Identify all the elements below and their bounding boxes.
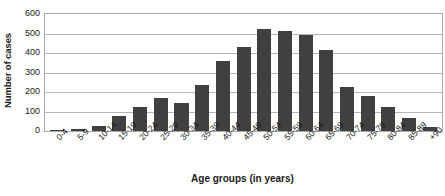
bar-slot — [357, 14, 378, 131]
y-tick-label: 200 — [25, 86, 40, 96]
bar-slot — [192, 14, 213, 131]
bar-slot — [47, 14, 68, 131]
bar — [216, 61, 230, 131]
x-slot: 10-14 — [87, 132, 108, 168]
bar — [237, 47, 251, 131]
y-tick-label: 500 — [25, 28, 40, 38]
bar-slot — [109, 14, 130, 131]
x-slot: 90+ — [418, 132, 439, 168]
x-slot: 15-19 — [108, 132, 129, 168]
bar-slot — [233, 14, 254, 131]
x-slot: 55-59 — [274, 132, 295, 168]
bar-slot — [399, 14, 420, 131]
x-slot: 5-9 — [67, 132, 88, 168]
bar-slot — [378, 14, 399, 131]
y-axis-tick-labels: 0100200300400500600 — [16, 7, 42, 133]
bar — [299, 35, 313, 131]
bars-layer — [45, 14, 442, 131]
bar-slot — [68, 14, 89, 131]
x-slot: 40-44 — [212, 132, 233, 168]
x-slot: 70-74 — [336, 132, 357, 168]
bar-slot — [171, 14, 192, 131]
x-axis-tick-labels: 0-45-910-1415-1920-2425-2930-3435-3940-4… — [44, 132, 441, 168]
x-slot: 50-54 — [253, 132, 274, 168]
bar — [319, 50, 333, 131]
bar-slot — [419, 14, 440, 131]
x-slot: 25-29 — [149, 132, 170, 168]
y-tick-label: 400 — [25, 47, 40, 57]
x-slot: 35-39 — [191, 132, 212, 168]
y-tick-label: 300 — [25, 67, 40, 77]
x-slot: 80-84 — [377, 132, 398, 168]
x-slot: 0-4 — [46, 132, 67, 168]
bar — [278, 31, 292, 131]
bar-slot — [130, 14, 151, 131]
y-axis-title: Number of cases — [0, 0, 16, 140]
bar-slot — [213, 14, 234, 131]
bar-slot — [316, 14, 337, 131]
bar-slot — [254, 14, 275, 131]
x-axis-title: Age groups (in years) — [44, 173, 441, 184]
bar-slot — [275, 14, 296, 131]
y-tick-label: 600 — [25, 8, 40, 18]
x-slot: 75-79 — [356, 132, 377, 168]
x-slot: 60-64 — [294, 132, 315, 168]
x-slot: 85-89 — [398, 132, 419, 168]
y-tick-label: 100 — [25, 106, 40, 116]
x-slot: 20-24 — [129, 132, 150, 168]
bar — [257, 29, 271, 131]
x-slot: 45-49 — [232, 132, 253, 168]
bar-chart-figure: Number of cases 0100200300400500600 0-45… — [0, 0, 445, 196]
y-tick-label: 0 — [35, 125, 40, 135]
bar-slot — [88, 14, 109, 131]
y-axis-title-text: Number of cases — [3, 32, 14, 107]
x-slot: 65-69 — [315, 132, 336, 168]
bar-slot — [150, 14, 171, 131]
plot-area — [44, 13, 443, 132]
x-slot: 30-34 — [170, 132, 191, 168]
bar-slot — [295, 14, 316, 131]
bar-slot — [337, 14, 358, 131]
